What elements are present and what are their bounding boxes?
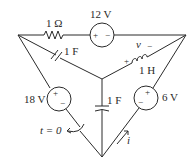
inductor-1h — [132, 55, 149, 63]
capacitor-plate — [51, 50, 58, 59]
resistor-label: 1 Ω — [46, 17, 62, 29]
svg-text:+: + — [93, 30, 98, 40]
capacitor-vertical-branch — [95, 79, 109, 157]
svg-text:+: + — [145, 87, 150, 97]
svg-text:−: − — [147, 41, 152, 51]
top-branch: + − — [18, 23, 186, 47]
source-top-label: 12 V — [90, 8, 112, 20]
source-left-label: 18 V — [24, 93, 46, 105]
svg-text:−: − — [105, 30, 110, 40]
voltage-source-18v — [47, 87, 71, 111]
current-label: i — [127, 134, 130, 146]
svg-text:+: + — [53, 88, 58, 98]
capacitor-diagonal-label: 1 F — [64, 45, 78, 57]
capacitor-diagonal-branch — [18, 35, 102, 79]
switch-arrow — [68, 124, 84, 132]
capacitor-vertical-label: 1 F — [107, 94, 121, 106]
source-right-label: 6 V — [162, 91, 178, 103]
circuit-diagram: + − 1 Ω 12 V 1 F + − v 1 H + − 18 V t = … — [0, 0, 196, 164]
svg-text:−: − — [60, 98, 65, 108]
resistor-1-ohm — [44, 31, 63, 39]
inductor-label: 1 H — [139, 64, 155, 76]
capacitor-plate — [55, 52, 62, 61]
svg-text:−: − — [138, 97, 143, 107]
inductor-voltage-label: v — [136, 38, 141, 50]
svg-text:+: + — [124, 56, 129, 66]
switch-label: t = 0 — [40, 124, 62, 136]
